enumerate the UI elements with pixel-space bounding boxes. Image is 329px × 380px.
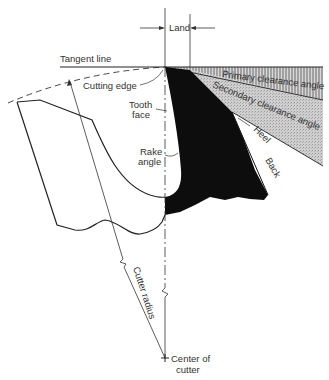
land-arrowhead-right <box>190 26 196 30</box>
rake-angle-label-line2: angle <box>138 156 161 167</box>
tangent-line-label: Tangent line <box>60 53 111 64</box>
land-label: Land <box>169 22 190 33</box>
back-label: Back <box>263 156 283 180</box>
cutting-edge-leader <box>140 70 163 85</box>
center-label-line1: Center of <box>171 353 210 364</box>
cutting-edge-label: Cutting edge <box>83 80 137 91</box>
cutter-tooth-diagram: Land Tangent line Cutting edge Tooth fac… <box>0 0 329 380</box>
adjacent-tooth-outline <box>17 100 165 234</box>
center-label-line2: cutter <box>176 364 200 375</box>
center-line-break <box>162 285 168 358</box>
tooth-face-label-line2: face <box>132 109 150 120</box>
rake-angle-arc <box>165 153 178 156</box>
land-arrowhead-left <box>159 26 165 30</box>
